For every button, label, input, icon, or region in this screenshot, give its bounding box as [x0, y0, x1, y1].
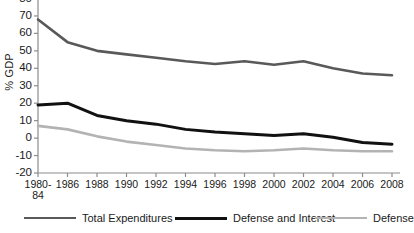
legend-label: Defense	[373, 212, 414, 224]
legend-item-defense-and-interest[interactable]: Defense and Interest	[175, 206, 335, 230]
legend-swatch-line-icon	[315, 217, 367, 219]
legend-item-total-expenditures[interactable]: Total Expenditures	[24, 206, 173, 230]
legend-item-defense[interactable]: Defense	[315, 206, 414, 230]
series-line-total-expenditures	[38, 19, 392, 75]
legend-label: Total Expenditures	[82, 212, 173, 224]
chart-legend: Total ExpendituresDefense and InterestDe…	[0, 206, 407, 233]
legend-swatch-line-icon	[175, 217, 227, 220]
series-line-defense-and-interest	[38, 103, 392, 144]
legend-swatch-line-icon	[24, 217, 76, 219]
